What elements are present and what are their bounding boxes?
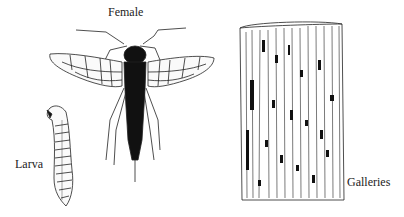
log-galleries-drawing (240, 22, 344, 200)
label-galleries: Galleries (347, 175, 390, 190)
label-larva: Larva (15, 157, 43, 172)
label-female: Female (108, 5, 143, 20)
larva-drawing (47, 106, 73, 206)
illustration-canvas (0, 0, 404, 217)
female-insect-drawing (50, 28, 214, 182)
